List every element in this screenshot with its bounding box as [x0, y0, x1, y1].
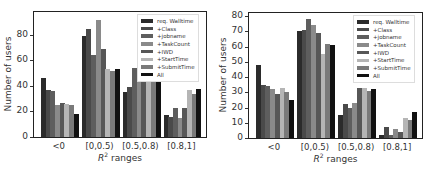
y-tick-label: 80: [223, 10, 243, 20]
x-axis-label: R2 ranges: [286, 152, 386, 164]
legend-label: +SubmitTime: [373, 65, 411, 71]
y-tick-mark: [30, 35, 33, 36]
legend-item: +TaskCount: [141, 40, 195, 48]
y-tick-mark: [245, 47, 248, 48]
y-tick-mark: [30, 86, 33, 87]
legend-label: req. Walltime: [157, 18, 193, 24]
legend-item: +TaskCount: [357, 41, 411, 49]
legend-swatch: [141, 34, 153, 38]
bar-all: [289, 100, 294, 138]
legend-label: +StartTime: [157, 56, 189, 62]
legend-swatch: [141, 73, 153, 77]
legend-swatch: [141, 50, 153, 54]
legend-item: +StartTime: [357, 56, 411, 64]
legend-swatch: [357, 20, 369, 24]
y-tick-mark: [245, 92, 248, 93]
legend-swatch: [141, 65, 153, 69]
bar-all: [330, 45, 335, 138]
legend-swatch: [141, 27, 153, 31]
chart-legend: req. Walltime+Class+jobname+TaskCount+IW…: [353, 15, 415, 83]
legend-label: +Class: [157, 26, 176, 32]
legend-label: req. Walltime: [373, 19, 409, 25]
legend-label: +IWD: [157, 49, 173, 55]
legend-item: All: [141, 71, 195, 79]
y-tick-mark: [245, 31, 248, 32]
y-tick-mark: [245, 123, 248, 124]
legend-swatch: [357, 66, 369, 70]
y-tick-mark: [245, 16, 248, 17]
legend-label: +TaskCount: [157, 41, 190, 47]
legend-item: +jobname: [357, 33, 411, 41]
y-tick-mark: [30, 111, 33, 112]
y-tick-label: 0: [8, 131, 28, 141]
legend-item: All: [357, 72, 411, 80]
y-axis-label: Number of users: [3, 24, 13, 124]
bar-all: [115, 69, 120, 137]
legend-label: +TaskCount: [373, 42, 406, 48]
x-axis-label: R2 ranges: [70, 151, 170, 163]
legend-item: +IWD: [141, 48, 195, 56]
legend-item: +Class: [141, 25, 195, 33]
legend-item: req. Walltime: [141, 17, 195, 25]
legend-label: +Class: [373, 27, 392, 33]
y-tick-mark: [245, 77, 248, 78]
legend-label: +jobname: [157, 33, 186, 39]
legend-swatch: [357, 51, 369, 55]
x-tick-label: [0.8,1]: [156, 141, 206, 151]
legend-item: +jobname: [141, 32, 195, 40]
legend-label: +StartTime: [373, 57, 405, 63]
legend-swatch: [141, 58, 153, 62]
legend-label: All: [373, 73, 380, 79]
bar-all: [74, 114, 79, 137]
legend-item: req. Walltime: [357, 18, 411, 26]
bar-all: [196, 89, 201, 137]
legend-swatch: [357, 28, 369, 32]
legend-label: All: [157, 72, 164, 78]
legend-swatch: [141, 42, 153, 46]
y-axis-label: Number of users: [218, 25, 228, 125]
legend-item: +StartTime: [141, 55, 195, 63]
y-tick-mark: [30, 60, 33, 61]
legend-swatch: [357, 74, 369, 78]
bar-all: [371, 89, 376, 138]
legend-swatch: [141, 19, 153, 23]
legend-label: +IWD: [373, 50, 389, 56]
legend-swatch: [357, 43, 369, 47]
bar-all: [412, 112, 417, 138]
y-tick-label: 0: [223, 132, 243, 142]
legend-item: +Class: [357, 26, 411, 34]
y-tick-mark: [245, 138, 248, 139]
x-tick-label: [0.8,1]: [372, 142, 422, 152]
y-tick-mark: [245, 62, 248, 63]
legend-item: +SubmitTime: [141, 63, 195, 71]
legend-item: +SubmitTime: [357, 64, 411, 72]
legend-swatch: [357, 35, 369, 39]
chart-legend: req. Walltime+Class+jobname+TaskCount+IW…: [137, 14, 199, 82]
legend-swatch: [357, 59, 369, 63]
legend-label: +SubmitTime: [157, 64, 195, 70]
legend-item: +IWD: [357, 49, 411, 57]
y-tick-mark: [30, 137, 33, 138]
y-tick-mark: [245, 108, 248, 109]
legend-label: +jobname: [373, 34, 402, 40]
